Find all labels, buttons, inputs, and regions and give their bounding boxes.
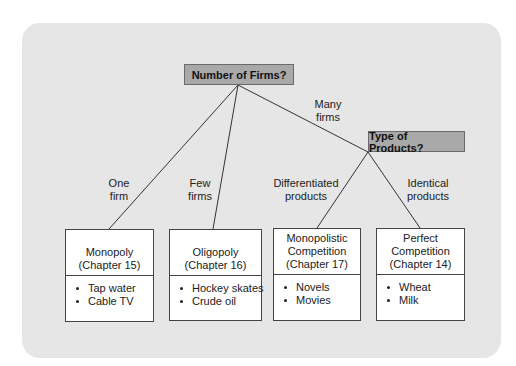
example-item: Novels [296,281,360,294]
market-box-monopoly: Monopoly (Chapter 15) Tap water Cable TV [65,229,154,322]
example-item: Hockey skates [192,282,261,295]
examples-list: Wheat Milk [377,275,464,307]
market-title: Monopolistic Competition (Chapter 17) [274,229,360,275]
edge-label-line: firms [308,111,348,124]
example-item: Milk [399,294,464,307]
market-title: Oligopoly (Chapter 16) [170,230,261,276]
example-item: Tap water [88,282,153,295]
example-item: Cable TV [88,295,153,308]
edge-few-firms [213,85,238,229]
question-label: Number of Firms? [192,69,287,81]
title-line: (Chapter 17) [286,258,348,271]
title-line: (Chapter 15) [79,259,141,272]
edge-label-few-firms: Few firms [180,177,220,203]
example-item: Wheat [399,281,464,294]
examples-list: Hockey skates Crude oil [170,276,261,308]
title-line: Competition [288,245,347,258]
edge-label-one-firm: One firm [99,177,139,203]
edge-label-identical: Identical products [404,177,452,203]
edge-label-line: Many [308,98,348,111]
question-type-of-products: Type of Products? [368,131,465,152]
question-number-of-firms: Number of Firms? [184,64,294,85]
edge-label-line: products [270,190,342,203]
edge-label-many-firms: Many firms [308,98,348,124]
title-line: Competition [391,245,450,258]
market-box-perfect-competition: Perfect Competition (Chapter 14) Wheat M… [376,228,465,321]
title-line: Oligopoly [193,246,239,259]
edge-label-line: firms [180,190,220,203]
market-box-monopolistic-competition: Monopolistic Competition (Chapter 17) No… [273,228,361,321]
edge-one-firm [109,85,238,229]
edge-label-line: Identical [404,177,452,190]
market-title: Perfect Competition (Chapter 14) [377,229,464,275]
question-label: Type of Products? [369,130,464,154]
market-box-oligopoly: Oligopoly (Chapter 16) Hockey skates Cru… [169,229,262,321]
edge-many-firms [238,85,368,152]
edge-label-differentiated: Differentiated products [270,177,342,203]
edge-label-line: firm [99,190,139,203]
edge-label-line: products [404,190,452,203]
title-line: (Chapter 16) [185,259,247,272]
market-title: Monopoly (Chapter 15) [66,230,153,276]
edge-label-line: Differentiated [270,177,342,190]
edge-label-line: Few [180,177,220,190]
title-line: Monopoly [86,246,134,259]
examples-list: Novels Movies [274,275,360,307]
title-line: Monopolistic [286,232,347,245]
example-item: Crude oil [192,295,261,308]
example-item: Movies [296,294,360,307]
title-line: Perfect [403,232,438,245]
edge-label-line: One [99,177,139,190]
examples-list: Tap water Cable TV [66,276,153,308]
title-line: (Chapter 14) [390,258,452,271]
